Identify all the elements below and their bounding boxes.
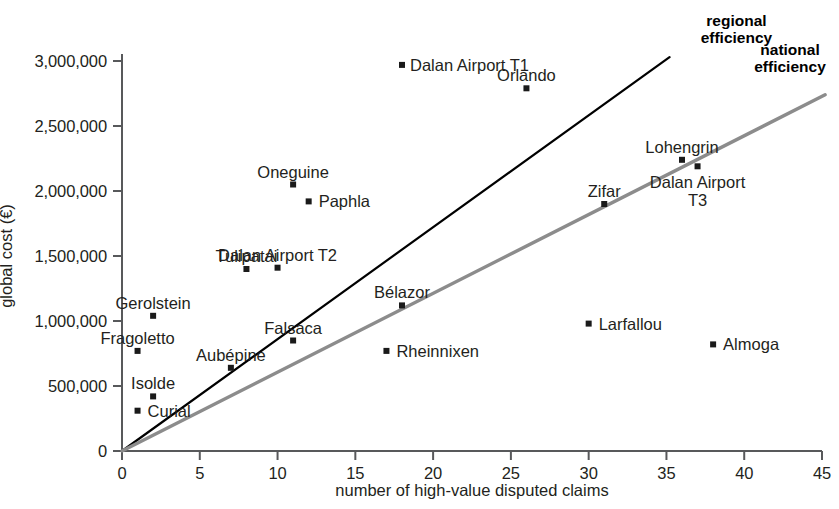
y-tick-label: 500,000: [48, 377, 107, 396]
x-tick-label: 40: [735, 464, 753, 483]
y-tick-label: 2,500,000: [34, 117, 107, 136]
data-point-label: Isolde: [131, 375, 175, 392]
data-point-marker: [586, 321, 592, 327]
x-tick-label: 5: [195, 464, 204, 483]
data-point-label: Rheinnixen: [396, 343, 479, 360]
y-tick-label: 0: [98, 442, 107, 461]
data-point-label: Dalan AirportT3: [650, 174, 745, 209]
trend-line-national-efficiency: [122, 95, 825, 451]
x-tick-label: 35: [657, 464, 675, 483]
data-point-marker: [150, 313, 156, 319]
data-point-marker: [243, 266, 249, 272]
data-point-marker: [228, 365, 234, 371]
data-point-label: Almoga: [723, 336, 779, 353]
data-point-label: Oneguine: [257, 164, 329, 181]
data-point-label: Orlando: [497, 67, 556, 84]
data-point-marker: [290, 182, 296, 188]
scatter-plot-canvas: [0, 0, 839, 509]
y-tick-marks: [113, 61, 122, 451]
y-tick-label: 3,000,000: [34, 52, 107, 71]
y-tick-label: 1,500,000: [34, 247, 107, 266]
data-point-marker: [399, 62, 405, 68]
data-point-marker: [399, 302, 405, 308]
data-point-label: Paphla: [319, 193, 370, 210]
x-axis-title: number of high-value disputed claims: [335, 481, 608, 500]
x-tick-label: 45: [813, 464, 831, 483]
data-point-marker: [135, 348, 141, 354]
data-point-marker: [601, 201, 607, 207]
data-point-label: Falsaca: [264, 320, 322, 337]
data-point-label: Dalan Airport T2: [218, 247, 337, 264]
y-tick-label: 2,000,000: [34, 182, 107, 201]
x-tick-marks: [122, 451, 822, 460]
data-point-marker: [306, 198, 312, 204]
x-tick-label: 10: [268, 464, 286, 483]
data-point-label: Fragoletto: [100, 330, 174, 347]
data-point-label: Larfallou: [599, 316, 662, 333]
data-point-marker: [150, 393, 156, 399]
data-point-marker: [679, 157, 685, 163]
data-point-marker: [523, 85, 529, 91]
data-point-marker: [290, 338, 296, 344]
data-point-label: Aubépine: [196, 347, 266, 364]
chart-page: 0500,0001,000,0001,500,0002,000,0002,500…: [0, 0, 839, 509]
data-point-marker: [710, 341, 716, 347]
x-tick-label: 0: [117, 464, 126, 483]
trend-line-label-national-efficiency: nationalefficiency: [754, 41, 826, 76]
trend-line-regional-efficiency: [122, 57, 670, 451]
y-tick-label: 1,000,000: [34, 312, 107, 331]
data-point-label: Zifar: [588, 183, 621, 200]
data-point-marker: [135, 408, 141, 414]
data-point-marker: [383, 348, 389, 354]
data-point-marker: [695, 163, 701, 169]
data-point-label: Gerolstein: [116, 295, 191, 312]
y-axis-title: global cost (€): [0, 156, 16, 356]
data-point-label: Curial: [148, 403, 191, 420]
data-point-label: Lohengrin: [645, 139, 718, 156]
data-point-label: Bélazor: [374, 284, 430, 301]
data-point-marker: [275, 265, 281, 271]
